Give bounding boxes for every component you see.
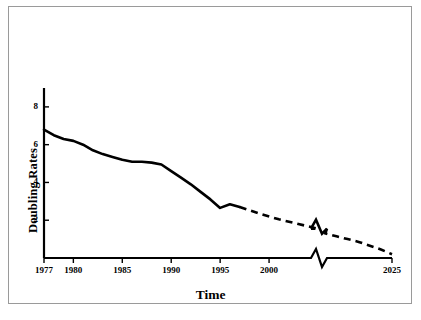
y-tick-label: 2 (24, 214, 38, 224)
series-break-marker (311, 220, 327, 234)
x-tick-label: 1995 (200, 265, 240, 275)
series-observed-line (44, 130, 240, 208)
y-tick-label: 4 (24, 176, 38, 186)
x-tick-label: 1990 (151, 265, 191, 275)
series-projected-line (240, 207, 318, 229)
y-tick-label: 6 (24, 139, 38, 149)
x-axis-title: Time (0, 287, 421, 303)
chart-axes (44, 88, 392, 267)
series-projected-line (325, 229, 392, 255)
x-tick-label: 1985 (102, 265, 142, 275)
x-tick-label: 2025 (372, 265, 412, 275)
y-tick-label: 8 (24, 101, 38, 111)
x-tick-label: 1980 (53, 265, 93, 275)
x-tick-label: 2000 (249, 265, 289, 275)
chart-series (44, 130, 392, 255)
